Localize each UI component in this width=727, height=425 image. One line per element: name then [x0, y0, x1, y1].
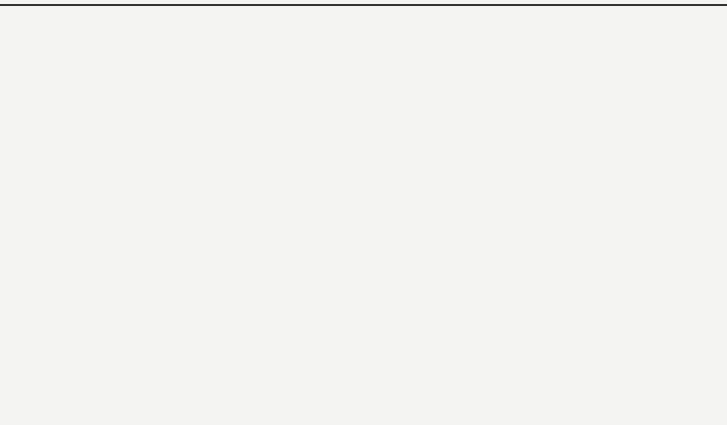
- pie-chart: [0, 0, 727, 425]
